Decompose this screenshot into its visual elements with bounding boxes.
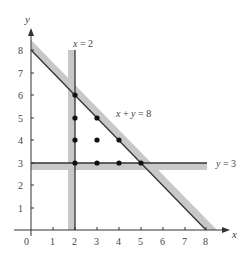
label-xy8: x + y = 8 xyxy=(115,108,151,119)
svg-text:7: 7 xyxy=(18,68,23,79)
svg-text:3: 3 xyxy=(18,158,23,169)
svg-text:1: 1 xyxy=(50,236,55,247)
svg-text:3: 3 xyxy=(94,236,99,247)
svg-text:2: 2 xyxy=(72,236,77,247)
svg-text:0: 0 xyxy=(24,236,29,247)
svg-text:8: 8 xyxy=(203,236,208,247)
label-x2: x = 2 xyxy=(72,38,93,49)
svg-text:5: 5 xyxy=(138,236,143,247)
band-xy8 xyxy=(31,40,217,230)
svg-text:8: 8 xyxy=(18,45,23,56)
x-axis-arrow xyxy=(222,227,230,233)
svg-text:4: 4 xyxy=(116,236,121,247)
y-tick-labels: 123 456 78 xyxy=(18,45,23,214)
y-axis-label: y xyxy=(24,13,30,25)
svg-text:4: 4 xyxy=(18,135,23,146)
label-y3: y = 3 xyxy=(215,158,236,169)
svg-text:6: 6 xyxy=(160,236,165,247)
chart: 012 345 678 123 456 78 y x x = 2 y = 3 x… xyxy=(0,0,251,262)
svg-text:2: 2 xyxy=(18,180,23,191)
svg-text:1: 1 xyxy=(18,203,23,214)
svg-text:6: 6 xyxy=(18,90,23,101)
y-axis-arrow xyxy=(28,28,34,36)
svg-text:5: 5 xyxy=(18,113,23,124)
x-axis-label: x xyxy=(231,228,237,240)
svg-text:7: 7 xyxy=(182,236,187,247)
x-tick-labels: 012 345 678 xyxy=(24,236,208,247)
